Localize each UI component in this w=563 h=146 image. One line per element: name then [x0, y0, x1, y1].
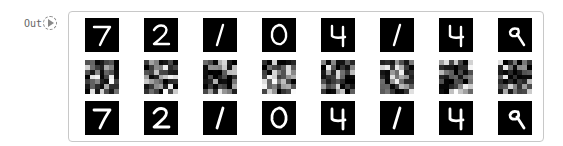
encoded-feature-map [203, 60, 237, 94]
output-area [68, 11, 544, 142]
play-circle-icon[interactable] [43, 16, 57, 30]
encoded-feature-map [439, 60, 473, 94]
original-digit-image [321, 18, 355, 52]
reconstructed-digit-image [144, 101, 178, 135]
reconstructed-digit-image [380, 101, 414, 135]
original-digit-image [439, 18, 473, 52]
reconstructed-digit-image [203, 101, 237, 135]
reconstructed-digit-image [439, 101, 473, 135]
original-digit-image [262, 18, 296, 52]
encoded-feature-map [498, 60, 532, 94]
original-digit-image [203, 18, 237, 52]
reconstructed-digit-image [85, 101, 119, 135]
original-digit-image [498, 18, 532, 52]
original-digit-image [144, 18, 178, 52]
encoded-feature-map [262, 60, 296, 94]
reconstructed-digit-image [321, 101, 355, 135]
encoded-feature-map [144, 60, 178, 94]
encoded-feature-map [380, 60, 414, 94]
reconstructed-digit-image [262, 101, 296, 135]
output-prompt-label: Out [24, 18, 42, 29]
output-prompt: Out [24, 16, 57, 30]
original-digit-image [380, 18, 414, 52]
encoded-feature-map [321, 60, 355, 94]
encoded-feature-map [85, 60, 119, 94]
reconstructed-digit-image [498, 101, 532, 135]
original-digit-image [85, 18, 119, 52]
